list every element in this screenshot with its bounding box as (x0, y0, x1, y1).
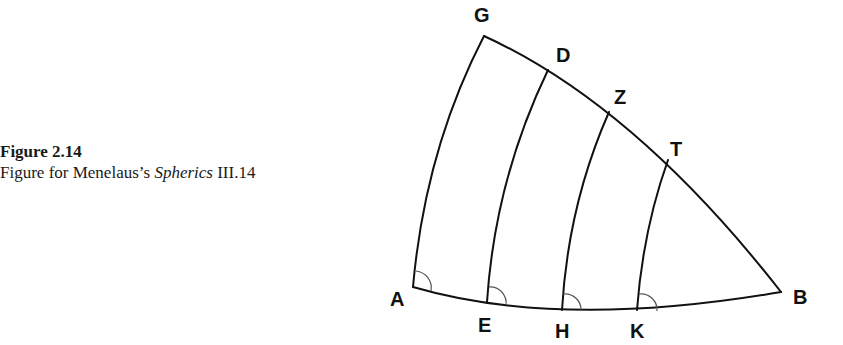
arc-ZH (562, 112, 609, 310)
label-B: B (793, 286, 807, 308)
arc-TK (637, 160, 668, 310)
label-T: T (670, 138, 682, 160)
label-D: D (556, 44, 570, 66)
spherical-triangle-diagram: G D Z T B A E H K (0, 0, 843, 345)
label-Z: Z (614, 86, 626, 108)
label-K: K (630, 320, 645, 342)
label-A: A (390, 288, 404, 310)
arc-GB (484, 36, 781, 292)
arc-AB (413, 287, 781, 310)
arc-DE (487, 70, 548, 302)
angle-marker-E (489, 287, 506, 305)
arc-GA (413, 36, 484, 287)
angle-marker-H (563, 294, 581, 311)
label-E: E (478, 314, 491, 336)
label-G: G (474, 4, 490, 26)
label-H: H (555, 320, 569, 342)
